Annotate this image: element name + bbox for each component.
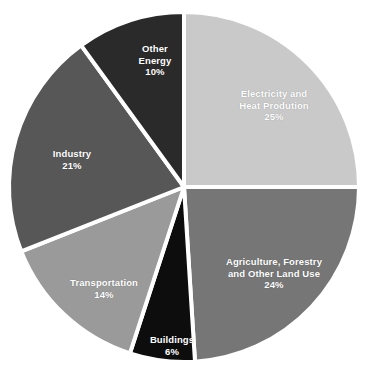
pie-chart-figure: Electricity andHeat Prodution25%Agricult… [0,0,370,382]
pie-slice-agriculture[interactable] [184,187,359,362]
pie-slice-electricity[interactable] [184,12,359,187]
pie-chart-svg [0,0,370,382]
